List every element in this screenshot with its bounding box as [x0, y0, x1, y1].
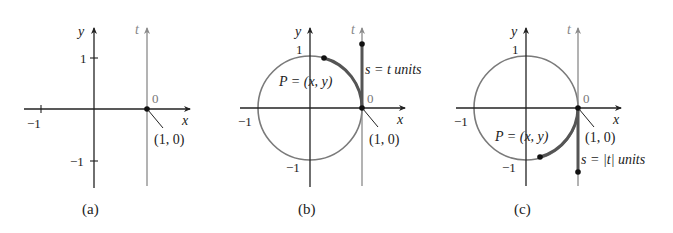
y-axis-label: y — [293, 24, 302, 39]
panel-c: y t x 1 −1 −1 0 (1, 0) P = (x, y) s = |t… — [454, 22, 646, 218]
x-axis-label: x — [396, 112, 404, 127]
tick-label-y-neg1: −1 — [286, 160, 300, 175]
y-axis-label: y — [76, 24, 85, 39]
tick-label-y-1: 1 — [296, 42, 303, 57]
P-label: P = (x, y) — [494, 129, 549, 145]
point-t — [359, 41, 365, 47]
tick-label-x-neg1: −1 — [27, 116, 41, 131]
x-axis-label: x — [612, 112, 620, 127]
panel-caption: (c) — [514, 201, 531, 218]
panel-caption: (a) — [82, 201, 99, 218]
P-label: P = (x, y) — [278, 74, 333, 90]
tick-label-y-1: 1 — [512, 42, 519, 57]
panel-a: y t x 1 −1 −1 0 (1, 0) (a) — [24, 22, 190, 218]
t-origin-label: 0 — [583, 91, 590, 106]
y-axis-label: y — [509, 24, 518, 39]
x-axis-label: x — [181, 113, 189, 128]
point-P — [537, 154, 543, 160]
leader-line — [363, 109, 378, 127]
t-axis-label: t — [135, 22, 140, 37]
tick-label-y-neg1: −1 — [502, 160, 516, 175]
tick-label-x-neg1: −1 — [238, 114, 252, 129]
point-label: (1, 0) — [369, 132, 400, 148]
unit-circle-figure: y t x 1 −1 −1 0 (1, 0) (a) y t x 1 −1 −1 — [0, 0, 673, 233]
tick-label-y-neg1: −1 — [70, 154, 84, 169]
panel-b: y t x 1 −1 −1 0 (1, 0) P = (x, y) s = t … — [238, 22, 422, 218]
point-P — [321, 55, 327, 61]
leader-line — [148, 110, 163, 128]
arc-length-label: s = t units — [365, 62, 422, 77]
panel-caption: (b) — [298, 201, 316, 218]
arc-length-label: s = |t| units — [581, 152, 646, 167]
t-axis-label: t — [351, 22, 356, 37]
tick-label-y-1: 1 — [80, 51, 87, 66]
t-origin-label: 0 — [152, 91, 159, 106]
t-origin-label: 0 — [367, 91, 374, 106]
point-label: (1, 0) — [585, 130, 616, 146]
t-axis-label: t — [567, 22, 572, 37]
leader-line — [579, 109, 594, 127]
point-label: (1, 0) — [154, 132, 185, 148]
tick-label-x-neg1: −1 — [454, 114, 468, 129]
point-t — [575, 169, 581, 175]
